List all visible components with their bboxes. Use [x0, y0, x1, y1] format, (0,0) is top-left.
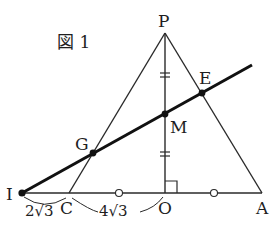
label-O: O: [158, 198, 172, 218]
length-CO: 4√3: [99, 202, 128, 220]
circle-mark-CO: [116, 190, 123, 197]
thick-line-IE: [22, 65, 252, 193]
point-M: [162, 111, 169, 118]
label-I: I: [6, 184, 13, 204]
label-M: M: [170, 117, 187, 137]
point-E: [199, 90, 206, 97]
figure-title: 図 1: [57, 32, 90, 52]
label-P: P: [158, 11, 169, 31]
point-G: [90, 150, 97, 157]
right-angle-mark: [165, 181, 177, 193]
label-E: E: [199, 68, 211, 88]
length-IC: 2√3: [25, 202, 54, 220]
label-G: G: [75, 134, 89, 154]
circle-mark-OA: [211, 190, 218, 197]
side-PA: [165, 33, 262, 193]
label-C: C: [60, 198, 73, 218]
label-A: A: [255, 198, 269, 218]
side-PC: [69, 33, 165, 193]
geometry-figure: 図 1 P E M G I C O A 2√3 4√3: [0, 0, 278, 246]
point-I: [18, 189, 25, 196]
